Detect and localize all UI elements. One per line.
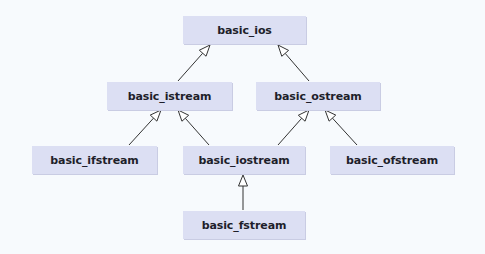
class-node-basic-ostream: basic_ostream: [256, 82, 380, 110]
edge-basic-iostream-to-basic-istream: [178, 110, 209, 145]
class-node-basic-ofstream: basic_ofstream: [330, 146, 454, 174]
edge-line: [332, 118, 357, 145]
edge-line: [129, 118, 154, 145]
class-node-basic-istream: basic_istream: [107, 82, 232, 110]
edge-basic-ofstream-to-basic-ostream: [325, 110, 357, 145]
edge-basic-ifstream-to-basic-istream: [129, 110, 161, 145]
edge-basic-iostream-to-basic-ostream: [278, 110, 309, 145]
edge-line: [278, 118, 302, 145]
class-node-basic-ifstream: basic_ifstream: [32, 146, 157, 174]
edge-basic-ostream-to-basic-ios: [278, 45, 309, 81]
edge-line: [178, 53, 203, 81]
class-node-basic-fstream: basic_fstream: [183, 211, 305, 239]
edge-line: [285, 53, 309, 81]
hollow-arrowhead-icon: [239, 175, 248, 186]
edge-basic-istream-to-basic-ios: [178, 45, 210, 81]
class-node-basic-iostream: basic_iostream: [183, 146, 305, 174]
class-node-basic-ios: basic_ios: [183, 16, 306, 44]
edge-line: [185, 118, 209, 145]
edge-basic-fstream-to-basic-iostream: [239, 175, 248, 210]
hollow-arrowhead-icon: [278, 45, 289, 56]
